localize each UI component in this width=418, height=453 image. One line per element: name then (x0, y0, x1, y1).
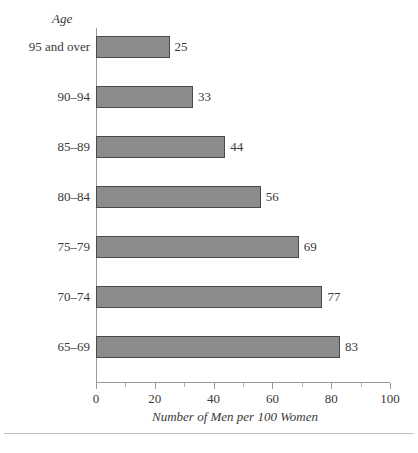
bar-row: 65–6983 (96, 336, 390, 358)
x-axis-tick-major (272, 383, 273, 389)
x-axis-tick-label: 20 (148, 391, 161, 407)
bar-row: 70–7477 (96, 286, 390, 308)
bar-row: 75–7969 (96, 236, 390, 258)
x-axis-tick-major (390, 383, 391, 389)
category-label-holder: 95 and over (6, 36, 90, 58)
x-axis-tick-label: 100 (380, 391, 400, 407)
bar (96, 136, 225, 158)
x-axis-tick-major (96, 383, 97, 389)
x-axis-tick-label: 80 (325, 391, 338, 407)
x-axis-tick-major (155, 383, 156, 389)
x-axis-tick-label: 40 (207, 391, 220, 407)
category-label: 80–84 (58, 189, 91, 205)
category-label: 85–89 (58, 139, 91, 155)
bar (96, 336, 340, 358)
category-label: 90–94 (58, 89, 91, 105)
category-label-holder: 80–84 (6, 186, 90, 208)
bar (96, 186, 261, 208)
bar-value-label: 83 (345, 339, 358, 355)
x-axis-title: Number of Men per 100 Women (0, 409, 418, 425)
bar-row: 85–8944 (96, 136, 390, 158)
bar-row: 95 and over25 (96, 36, 390, 58)
bar-value-label: 33 (198, 89, 211, 105)
bar-value-label: 25 (175, 39, 188, 55)
x-axis-tick-minor (125, 383, 126, 387)
bar (96, 236, 299, 258)
category-label: 75–79 (58, 239, 91, 255)
x-axis-tick-minor (361, 383, 362, 387)
category-label-holder: 85–89 (6, 136, 90, 158)
x-axis-tick-minor (243, 383, 244, 387)
bar (96, 86, 193, 108)
x-axis-tick-minor (302, 383, 303, 387)
x-axis-tick-label: 0 (93, 391, 100, 407)
bar-row: 90–9433 (96, 86, 390, 108)
bar-chart-figure: Age 95 and over2590–943385–894480–845675… (0, 0, 418, 453)
category-label: 65–69 (58, 339, 91, 355)
x-axis-title-text: Number of Men per 100 Women (100, 409, 318, 424)
bar-value-label: 56 (266, 189, 279, 205)
bottom-divider (4, 433, 414, 434)
plot-area: 95 and over2590–943385–894480–845675–796… (96, 28, 390, 382)
bar (96, 36, 170, 58)
category-label-holder: 90–94 (6, 86, 90, 108)
category-label-holder: 70–74 (6, 286, 90, 308)
y-axis-title: Age (52, 11, 72, 27)
category-label: 70–74 (58, 289, 91, 305)
x-axis-tick-label: 60 (266, 391, 279, 407)
x-axis-tick-major (331, 383, 332, 389)
bar-row: 80–8456 (96, 186, 390, 208)
category-label-holder: 65–69 (6, 336, 90, 358)
category-label-holder: 75–79 (6, 236, 90, 258)
bar-value-label: 44 (230, 139, 243, 155)
x-axis-tick-major (214, 383, 215, 389)
bar-value-label: 69 (304, 239, 317, 255)
x-axis-tick-minor (184, 383, 185, 387)
bar (96, 286, 322, 308)
bar-value-label: 77 (327, 289, 340, 305)
category-label: 95 and over (29, 39, 90, 55)
